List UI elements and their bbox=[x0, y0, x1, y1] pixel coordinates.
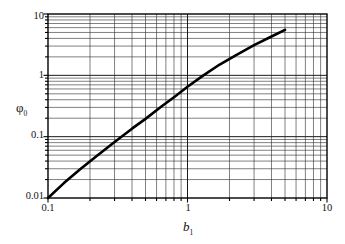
y-tick-label-0-1: 0.1 bbox=[31, 129, 44, 140]
y-axis-title-main: φ bbox=[16, 100, 24, 115]
x-axis-title-subscript: 1 bbox=[189, 228, 193, 237]
log-log-chart: 10 1 0.1 0.01 0.1 1 10 φ0 b1 bbox=[0, 0, 345, 244]
x-tick-label-10: 10 bbox=[322, 202, 333, 213]
y-axis-title-subscript: 0 bbox=[24, 109, 28, 118]
y-tick-label-0-01: 0.01 bbox=[26, 190, 44, 201]
y-tick-label-1: 1 bbox=[39, 69, 44, 80]
y-tick-label-10: 10 bbox=[34, 10, 45, 21]
figure-container: 10 1 0.1 0.01 0.1 1 10 φ0 b1 bbox=[0, 0, 345, 244]
x-tick-label-0-1: 0.1 bbox=[41, 202, 54, 213]
x-tick-label-1: 1 bbox=[185, 202, 190, 213]
